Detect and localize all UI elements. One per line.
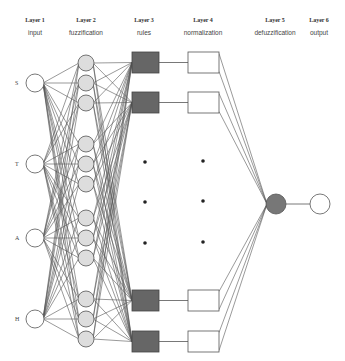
layer-3-title: Layer 3 [114, 17, 174, 23]
edge [43, 299, 79, 319]
edge [93, 63, 132, 64]
edge [93, 301, 132, 340]
defuzzification-node [266, 194, 286, 214]
ellipsis-dot [143, 160, 147, 164]
rule-node [132, 290, 159, 311]
input-node [26, 310, 44, 328]
ellipsis-dot [201, 199, 205, 203]
edge [219, 112, 267, 205]
edge [93, 63, 132, 165]
layer-4-desc: normalization [168, 29, 238, 36]
layer-6-desc: output [284, 29, 345, 36]
fuzzification-node [78, 95, 94, 111]
rule-node [132, 52, 159, 73]
edge [93, 339, 132, 342]
edge [43, 63, 79, 164]
edge [219, 204, 267, 333]
output-node [310, 194, 330, 214]
rule-node [132, 92, 159, 113]
fuzzification-node [78, 156, 94, 172]
edge [43, 103, 79, 164]
edge [43, 258, 79, 319]
fuzzification-node [78, 230, 94, 246]
input-node [26, 229, 44, 247]
ellipsis-dot [143, 200, 147, 204]
fuzzification-node [78, 311, 94, 327]
edge [93, 63, 132, 259]
fuzzification-node [78, 250, 94, 266]
fuzzification-node [78, 331, 94, 347]
fuzzification-node [78, 75, 94, 91]
edge [43, 164, 79, 184]
input-node [26, 155, 44, 173]
edge [43, 218, 79, 319]
edge [219, 204, 267, 351]
fuzzification-node [78, 176, 94, 192]
edge [43, 218, 79, 238]
edge [219, 54, 267, 205]
fuzzification-node [78, 136, 94, 152]
ellipsis-dot [201, 159, 205, 163]
layer-2-title: Layer 2 [56, 17, 116, 23]
ellipsis-dot [201, 240, 205, 244]
edge [43, 319, 79, 339]
input-node [26, 74, 44, 92]
input-label-h: H [15, 316, 19, 322]
normalization-node [188, 331, 219, 352]
input-label-a: A [15, 235, 19, 241]
edge [219, 204, 267, 292]
edge [219, 204, 267, 310]
layer-6-title: Layer 6 [289, 17, 345, 23]
edge [219, 94, 267, 205]
normalization-node [188, 290, 219, 311]
ellipsis-dot [143, 241, 147, 245]
layer-4-title: Layer 4 [173, 17, 233, 23]
normalization-node [188, 52, 219, 73]
fuzzification-node [78, 55, 94, 71]
edge [219, 72, 267, 205]
input-label-s: S [15, 80, 18, 86]
normalization-node [188, 92, 219, 113]
rule-node [132, 331, 159, 352]
fuzzification-node [78, 291, 94, 307]
anfis-diagram [0, 0, 345, 361]
fuzzification-node [78, 210, 94, 226]
input-label-t: T [15, 161, 19, 167]
edge [43, 63, 79, 83]
